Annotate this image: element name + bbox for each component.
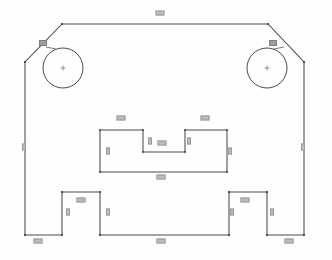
profile-vertex: [228, 191, 230, 193]
pocket-vertex: [142, 151, 144, 153]
profile-vertex: [228, 234, 230, 236]
pocket-vertex: [99, 171, 101, 173]
profile-vertex: [61, 23, 63, 25]
profile-vertex: [99, 191, 101, 193]
holes-group[interactable]: [43, 48, 287, 88]
drawing-canvas[interactable]: [0, 0, 332, 260]
dim-pocket-right[interactable]: [228, 148, 232, 155]
dim-right-height[interactable]: [301, 144, 305, 151]
profile-vertex: [267, 23, 269, 25]
dim-left-height[interactable]: [22, 144, 26, 151]
vertex-markers-group: [24, 23, 305, 236]
leader-bore-left: [46, 47, 56, 49]
profile-vertex: [266, 234, 268, 236]
dim-bottom-right[interactable]: [285, 239, 294, 244]
pocket-group[interactable]: [100, 130, 227, 172]
profile-vertex: [99, 234, 101, 236]
pocket-vertex: [184, 129, 186, 131]
profile-vertex: [303, 61, 305, 63]
pocket-vertex: [226, 171, 228, 173]
outer-profile-group[interactable]: [25, 24, 304, 235]
dim-pocket-top-left[interactable]: [117, 116, 126, 121]
leader-bore-right-label[interactable]: [269, 40, 277, 46]
profile-vertex: [266, 191, 268, 193]
dim-tab-left-inner[interactable]: [66, 209, 70, 216]
leader-bore-right: [274, 47, 284, 49]
dim-tab-right-outer[interactable]: [270, 209, 274, 216]
profile-vertex: [303, 234, 305, 236]
pocket-vertex: [184, 151, 186, 153]
dim-bottom-center[interactable]: [157, 239, 166, 244]
pocket-vertex: [142, 129, 144, 131]
dim-tab-left-outer[interactable]: [106, 209, 110, 216]
pocket-vertex: [99, 129, 101, 131]
dim-pocket-top-right[interactable]: [201, 116, 210, 121]
dim-notch-floor[interactable]: [158, 141, 167, 146]
dim-tab-left-top[interactable]: [77, 198, 86, 203]
dim-top-width[interactable]: [156, 11, 165, 16]
dim-bottom-left[interactable]: [34, 239, 43, 244]
dim-pocket-left[interactable]: [106, 148, 110, 155]
profile-vertex: [61, 234, 63, 236]
pocket-vertex: [226, 129, 228, 131]
outer-profile[interactable]: [25, 24, 304, 235]
dim-tab-right-inner[interactable]: [230, 209, 234, 216]
leaders-group: [46, 47, 284, 49]
central-stepped-pocket[interactable]: [100, 130, 227, 172]
leader-bore-left-label[interactable]: [39, 40, 47, 46]
dim-notch-right[interactable]: [187, 138, 191, 145]
dim-pocket-bottom[interactable]: [157, 175, 166, 180]
dim-tab-right-top[interactable]: [241, 198, 250, 203]
profile-vertex: [24, 234, 26, 236]
profile-vertex: [61, 191, 63, 193]
sketch-geometry[interactable]: [0, 0, 332, 260]
dim-notch-left[interactable]: [148, 138, 152, 145]
profile-vertex: [24, 61, 26, 63]
